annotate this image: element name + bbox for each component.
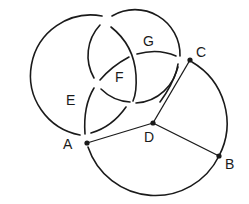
label-c: C [196, 45, 206, 59]
arc-a-to-f [91, 107, 126, 133]
arc-through-e [85, 88, 94, 134]
label-d: D [144, 130, 154, 144]
segment-db [153, 123, 219, 156]
arc-top-circle-left [88, 25, 100, 78]
arc-g [137, 51, 176, 56]
arc-left-circle [30, 15, 102, 135]
point-c [187, 57, 192, 62]
label-a: A [63, 137, 72, 151]
arc-top-circle-bottomleft [101, 89, 130, 102]
label-g: G [143, 34, 154, 48]
point-a [84, 140, 89, 145]
label-f: F [115, 70, 124, 84]
label-b: B [225, 157, 234, 171]
point-d [150, 120, 155, 125]
label-e: E [66, 93, 75, 107]
arc-circle-d [88, 62, 227, 196]
point-b [216, 153, 221, 158]
segment-dc [153, 60, 190, 123]
arc-through-f [111, 27, 136, 101]
diagram-canvas [0, 0, 249, 204]
geometry-diagram: A B C D E F G [0, 0, 249, 204]
